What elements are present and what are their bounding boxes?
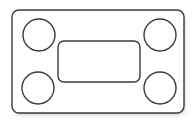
hole-top-left <box>23 19 55 51</box>
hole-top-right <box>144 19 176 51</box>
drawing-canvas <box>0 0 195 125</box>
hole-bottom-right <box>144 72 176 104</box>
center-cutout-outline <box>58 41 140 82</box>
technical-drawing <box>0 0 195 125</box>
hole-bottom-left <box>22 72 54 104</box>
